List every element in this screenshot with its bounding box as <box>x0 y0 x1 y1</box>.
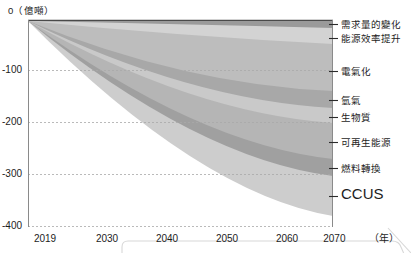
y-tick-label-3: -400 <box>2 221 22 231</box>
y-tick-label-2: -300 <box>2 169 22 179</box>
x-tick-label-2: 2040 <box>156 234 178 244</box>
x-tick-label-3: 2050 <box>216 234 238 244</box>
x-tick-label-4: 2060 <box>276 234 298 244</box>
x-tick-label-1: 2030 <box>96 234 118 244</box>
band-group <box>28 21 333 216</box>
series-label-hydrogen: 氫氣 <box>341 96 361 106</box>
series-label-renewables: 可再生能源 <box>341 138 392 148</box>
series-label-demand-change: 需求量的變化 <box>341 20 402 30</box>
emissions-wedge-chart: 0（億噸） <box>0 0 411 253</box>
series-label-fuel-switching: 燃料轉換 <box>341 164 381 174</box>
y-tick-label-1: -200 <box>2 117 22 127</box>
series-label-biomass: 生物質 <box>341 113 371 123</box>
x-tick-label-0: 2019 <box>34 234 56 244</box>
x-tick-label-5: 2070 <box>323 234 345 244</box>
series-label-energy-efficiency: 能源效率提升 <box>341 34 402 44</box>
x-axis-unit-label: （年） <box>369 234 399 244</box>
y-tick-label-0: -100 <box>2 65 22 75</box>
series-label-electrification: 電氣化 <box>341 67 371 77</box>
series-label-ccus: CCUS <box>341 189 384 199</box>
